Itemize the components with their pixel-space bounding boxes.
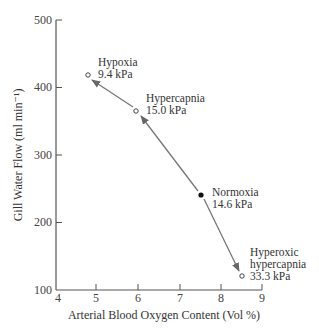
x-axis-title: Arterial Blood Oxygen Content (Vol %) [68,308,260,322]
y-tick-400: 400 [34,80,52,94]
arrow-normoxia-to-hypercapnia [141,116,198,191]
chart: 500 400 300 200 100 Gill Water Flow (ml … [0,0,319,328]
svg-text:9.4 kPa: 9.4 kPa [98,68,133,80]
arrow-hypercapnia-to-hypoxia [92,80,133,107]
x-tick-6: 6 [135,291,141,305]
annotation-normoxia: Normoxia 14.6 kPa [212,186,259,210]
y-tick-500: 500 [34,13,52,27]
point-hypercapnia [134,109,138,113]
x-tick-5: 5 [93,291,99,305]
y-tick-200: 200 [34,215,52,229]
x-axis: 4 5 6 7 8 9 Arterial Blood Oxygen Conten… [55,284,265,322]
point-hypoxia [86,73,90,77]
y-axis: 500 400 300 200 100 Gill Water Flow (ml … [11,13,62,297]
y-tick-300: 300 [34,148,52,162]
x-tick-7: 7 [177,291,183,305]
x-tick-9: 9 [259,291,265,305]
x-tick-8: 8 [218,291,224,305]
y-tick-100: 100 [34,283,52,297]
x-tick-4: 4 [55,291,61,305]
svg-text:14.6 kPa: 14.6 kPa [212,198,252,210]
svg-text:15.0 kPa: 15.0 kPa [146,104,186,116]
point-hyperoxic-hypercapnia [240,274,244,278]
svg-text:33.3 kPa: 33.3 kPa [250,270,290,282]
annotation-hyperoxic-hypercapnia: Hyperoxic hypercapnia 33.3 kPa [250,246,306,282]
annotation-hypoxia: Hypoxia 9.4 kPa [98,56,138,80]
annotation-hypercapnia: Hypercapnia 15.0 kPa [146,92,205,116]
point-normoxia [198,192,203,197]
svg-text:Normoxia: Normoxia [212,186,259,198]
y-axis-title: Gill Water Flow (ml min⁻¹) [11,89,25,222]
